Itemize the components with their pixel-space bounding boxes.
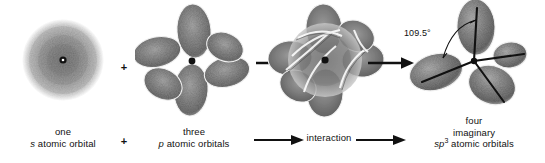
- caption-s-text: atomic orbital: [35, 138, 96, 149]
- caption-s-orbital: one s atomic orbital: [8, 126, 118, 149]
- caption-s-line1: one: [8, 126, 118, 138]
- caption-p-line2: p atomic orbitals: [133, 138, 255, 150]
- plus-operator-top: +: [116, 62, 132, 73]
- four-sp3-hybrid-orbitals-icon: [408, 0, 540, 118]
- caption-sp3-line3: sp3 atomic orbitals: [410, 138, 538, 150]
- nucleus-dot: [189, 58, 196, 65]
- arrow-right-icon-bottom-2: [355, 133, 407, 147]
- caption-sp3-line2: imaginary: [410, 127, 538, 139]
- caption-sp3-text: atomic orbitals: [448, 138, 513, 149]
- caption-sp3-line1: four: [410, 115, 538, 127]
- three-p-atomic-orbitals-icon: [135, 0, 253, 118]
- caption-p-text: atomic orbitals: [164, 138, 229, 149]
- sp3-orbitals-figure: [408, 0, 540, 118]
- caption-sp3-symbol: sp: [434, 138, 444, 149]
- nucleus-dot: [471, 58, 477, 64]
- caption-sp3-orbitals: four imaginary sp3 atomic orbitals: [410, 115, 538, 150]
- sp3-hybridization-diagram: +: [0, 0, 545, 163]
- p-orbitals-figure: [135, 0, 253, 118]
- plus-operator-bottom: +: [116, 136, 132, 147]
- s-atomic-orbital-icon: [8, 0, 118, 118]
- nucleus-dot: [321, 56, 328, 63]
- s-orbital-figure: [8, 0, 118, 118]
- caption-p-line1: three: [133, 126, 255, 138]
- bond-angle-label: 109.5°: [404, 28, 431, 38]
- caption-p-orbitals: three p atomic orbitals: [133, 126, 255, 149]
- caption-s-line2: s atomic orbital: [8, 138, 118, 150]
